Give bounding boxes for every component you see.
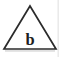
figure-canvas: b bbox=[0, 0, 59, 57]
baseline-shadow bbox=[5, 50, 55, 51]
right-edge-artifact bbox=[57, 0, 59, 57]
triangle-label-text: b bbox=[25, 30, 34, 49]
triangle-diagram: b bbox=[0, 0, 59, 57]
